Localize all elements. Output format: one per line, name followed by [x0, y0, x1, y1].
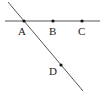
- point-c: [80, 19, 83, 22]
- point-a: [22, 19, 25, 22]
- diagonal-line: [8, 2, 83, 91]
- point-b: [51, 19, 54, 22]
- label-c: C: [78, 25, 85, 37]
- geometry-diagram: A B C D: [0, 0, 100, 100]
- point-d: [59, 63, 62, 66]
- label-d: D: [49, 65, 57, 77]
- label-b: B: [49, 25, 56, 37]
- label-a: A: [18, 25, 26, 37]
